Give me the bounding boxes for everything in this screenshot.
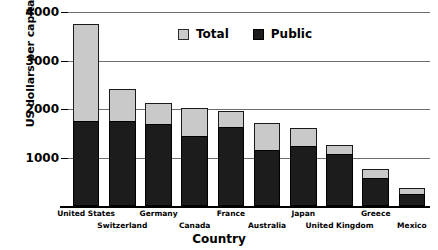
legend-label-total: Total: [196, 27, 229, 41]
gridline: [68, 61, 430, 62]
bar-group: [145, 103, 172, 206]
bar-chart: US dollars per capita 1000200030004000 T…: [0, 0, 438, 250]
bar-segment-public: [254, 150, 281, 206]
bar-segment-public: [109, 121, 136, 206]
bar-group: [181, 108, 208, 206]
bar-group: [109, 89, 136, 206]
plot-area: 1000200030004000: [68, 12, 430, 206]
legend: Total Public: [178, 27, 312, 41]
bar-segment-public: [181, 136, 208, 206]
y-axis-title: US dollars per capita: [24, 0, 37, 144]
bar-group: [73, 24, 100, 206]
bar-segment-public: [218, 127, 245, 206]
bar-group: [362, 169, 389, 206]
y-axis-tick-label: 2000: [26, 103, 59, 115]
x-axis-tick-label: United States: [57, 209, 115, 218]
x-axis-tick-label: Switzerland: [97, 221, 147, 230]
bar-group: [290, 128, 317, 206]
bar-segment-public: [399, 194, 426, 206]
y-axis-tick-label: 1000: [26, 152, 59, 164]
bar-segment-public: [145, 124, 172, 206]
x-axis-line: [60, 206, 430, 208]
y-axis-tick: [61, 158, 68, 159]
gridline: [68, 12, 430, 13]
y-axis-tick: [61, 12, 68, 13]
x-axis-tick-label: France: [217, 209, 245, 218]
bar-segment-public: [290, 146, 317, 206]
x-axis-tick-label: Australia: [248, 221, 286, 230]
y-axis-tick-label: 3000: [26, 55, 59, 67]
legend-item-public: Public: [253, 27, 312, 41]
bar-group: [254, 123, 281, 206]
x-axis-tick-label: Greece: [361, 209, 391, 218]
y-axis-tick-label: 4000: [26, 6, 59, 18]
bar-segment-public: [362, 178, 389, 206]
x-axis-tick-label: Mexico: [397, 221, 427, 230]
legend-item-total: Total: [178, 27, 229, 41]
x-axis-tick-label: United Kingdom: [305, 221, 373, 230]
legend-swatch-total-icon: [178, 29, 189, 40]
legend-swatch-public-icon: [253, 29, 264, 40]
y-axis-tick: [61, 61, 68, 62]
bar-segment-public: [326, 154, 353, 206]
bar-group: [399, 188, 426, 206]
x-axis-tick-label: Canada: [179, 221, 210, 230]
x-axis-tick-label: Germany: [139, 209, 177, 218]
bar-segment-public: [73, 121, 100, 206]
bar-group: [218, 111, 245, 206]
y-axis-tick: [61, 109, 68, 110]
legend-label-public: Public: [271, 27, 312, 41]
x-axis-tick-label: Japan: [291, 209, 315, 218]
x-axis-title: Country: [0, 232, 438, 246]
bar-group: [326, 145, 353, 206]
